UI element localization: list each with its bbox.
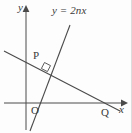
x-axis-label: x [119, 104, 124, 115]
equation-label: y = 2nx [52, 5, 86, 16]
y-axis-label: y [18, 2, 23, 13]
origin-label: O [31, 105, 39, 116]
y-axis-arrowhead-icon [23, 5, 30, 12]
figure-right-border [131, 0, 132, 133]
line-through-p-and-q [4, 51, 120, 111]
y-axis [23, 5, 30, 130]
diagram-canvas [0, 0, 132, 133]
point-p-label: P [33, 50, 39, 61]
geometry-figure: y = 2nx y x O P Q [0, 0, 132, 133]
point-q-label: Q [101, 107, 109, 118]
right-angle-marker-icon [41, 63, 50, 72]
